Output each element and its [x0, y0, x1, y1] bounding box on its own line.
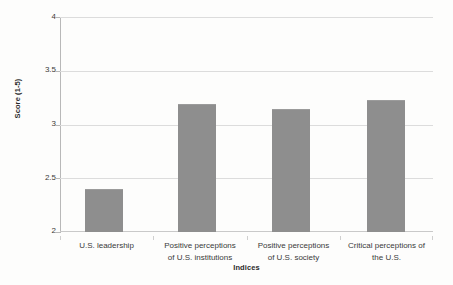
y-tick-label-4: 4: [32, 12, 56, 21]
x-label-positive-perceptions-society: Positive perceptions of U.S. society: [247, 240, 340, 263]
y-tick-label-2: 2: [32, 226, 56, 235]
bar-positive-perceptions-institutions: [178, 104, 216, 232]
x-label-critical-perceptions: Critical perceptions of the U.S.: [340, 240, 433, 263]
x-label-us-leadership: U.S. leadership: [60, 240, 153, 252]
y-tick-label-3: 3: [32, 119, 56, 128]
x-axis-title: Indices: [60, 263, 433, 272]
y-axis-tick-2: [55, 232, 60, 233]
x-label-line: of U.S. institutions: [153, 252, 247, 264]
plot-area: [60, 17, 433, 232]
gridline-3.5: [60, 71, 433, 72]
x-label-line: Positive perceptions: [247, 240, 340, 252]
y-tick-label-2.5: 2.5: [32, 173, 56, 182]
y-axis-title: Score (1-5): [13, 66, 22, 132]
gridline-4: [60, 17, 433, 18]
x-label-line: Critical perceptions of: [340, 240, 433, 252]
x-label-line: U.S. leadership: [60, 240, 153, 252]
x-label-positive-perceptions-institutions: Positive perceptions of U.S. institution…: [153, 240, 247, 263]
y-tick-label-3.5: 3.5: [32, 65, 56, 74]
bar-us-leadership: [85, 189, 123, 232]
y-axis-tick-labels: 4 3.5 3 2.5 2: [24, 0, 56, 285]
bar-positive-perceptions-society: [272, 109, 310, 232]
bar-critical-perceptions: [367, 100, 405, 232]
x-label-line: the U.S.: [340, 252, 433, 264]
chart-screenshot: Score (1-5) 4 3.5 3 2.5 2 U.S. leadershi…: [0, 0, 453, 285]
x-label-line: of U.S. society: [247, 252, 340, 264]
x-label-line: Positive perceptions: [153, 240, 247, 252]
